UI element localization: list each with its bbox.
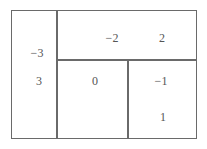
top-right-value-2: 2 (159, 32, 165, 44)
bottom-right-value-2: 1 (160, 111, 166, 123)
bottom-middle-value: 0 (92, 75, 98, 87)
lower-divider (127, 59, 129, 138)
left-value-2: 3 (36, 75, 42, 87)
bottom-right-value-1: −1 (155, 75, 168, 87)
left-divider (56, 10, 58, 138)
left-value-1: −3 (31, 47, 44, 59)
top-right-value-1: −2 (106, 32, 119, 44)
horizontal-divider (56, 59, 196, 61)
